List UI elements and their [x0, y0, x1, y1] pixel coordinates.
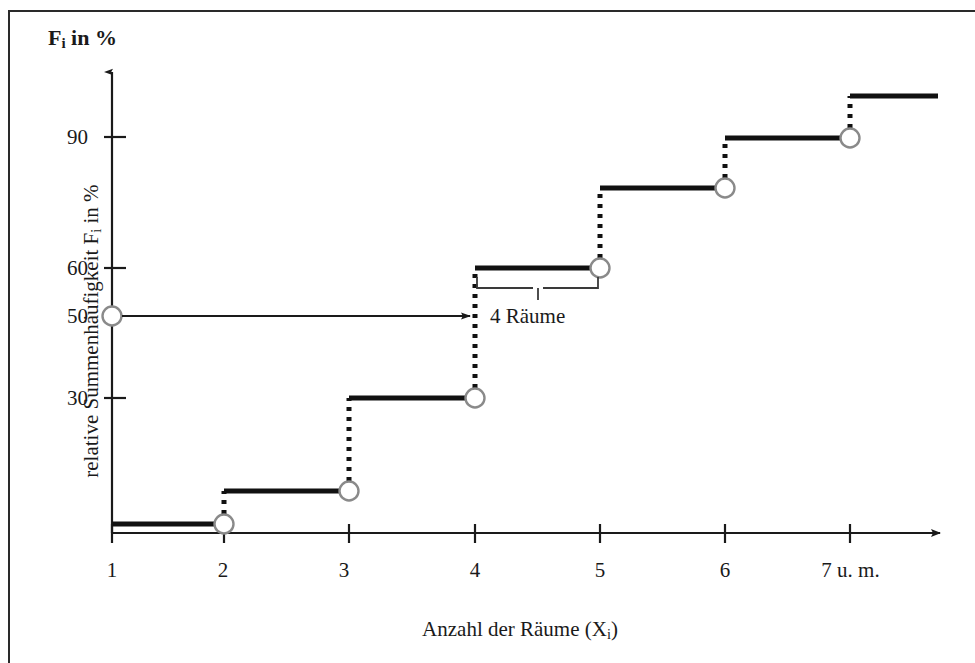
data-point-markers [103, 129, 860, 534]
data-point-marker-x7 [841, 129, 860, 148]
data-point-marker-x4 [466, 389, 485, 408]
step-function-series [112, 96, 938, 524]
data-point-marker-x2 [215, 515, 234, 534]
median-origin-marker-50 [103, 307, 122, 326]
data-point-marker-x3 [340, 482, 359, 501]
chart-page: Fi in % relative Summenhäufigkeit Fi in … [0, 0, 975, 663]
x-axis [112, 524, 940, 543]
y-axis [104, 72, 126, 533]
data-point-marker-x5 [591, 259, 610, 278]
data-point-marker-x6 [716, 179, 735, 198]
bracket-left-arm [477, 277, 533, 288]
bracket-right-arm [543, 277, 598, 288]
class-width-bracket [477, 277, 598, 300]
chart-canvas [0, 0, 975, 663]
